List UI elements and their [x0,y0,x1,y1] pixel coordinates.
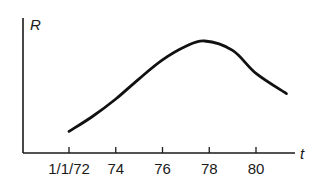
x-axis-ticks [69,147,256,153]
x-tick-label: 74 [107,160,124,177]
x-axis-title: t [300,145,305,162]
x-tick-label: 76 [154,160,171,177]
x-tick-label: 78 [201,160,218,177]
data-curve [69,41,286,132]
y-axis-title: R [30,16,41,33]
x-tick-label: 1/1/72 [48,160,90,177]
line-chart: 1/1/7274767880 R t [0,0,316,188]
x-tick-label: 80 [248,160,265,177]
x-axis-tick-labels: 1/1/7274767880 [48,160,264,177]
